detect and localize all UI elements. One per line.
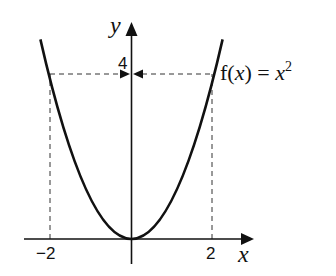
function-label-eq: ) =	[244, 60, 275, 85]
function-label-x: x	[234, 60, 245, 85]
y-tick-4: 4	[118, 54, 127, 73]
function-label-f: f(	[220, 60, 235, 85]
parabola-chart: y 4 −2 2 x f(x) = x2	[0, 0, 336, 276]
arrow-left-icon	[133, 70, 143, 79]
function-label-exponent: 2	[285, 59, 292, 74]
x-tick-neg2: −2	[36, 244, 55, 263]
x-tick-2: 2	[206, 244, 215, 263]
function-label-rhs-x: x	[274, 60, 285, 85]
x-axis-label: x	[237, 241, 249, 267]
function-label: f(x) = x2	[220, 59, 292, 85]
y-axis-arrow-icon	[126, 22, 138, 36]
y-axis-label: y	[108, 12, 121, 38]
